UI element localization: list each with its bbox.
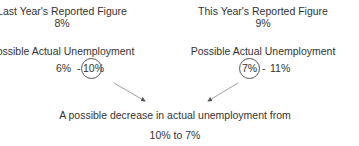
conclusion-line-1: A possible decrease in actual unemployme… xyxy=(59,109,291,121)
arrows xyxy=(0,0,359,146)
right-arrow-icon xyxy=(208,83,238,101)
conclusion-line-2: 10% to 7% xyxy=(150,129,201,141)
left-arrow-icon xyxy=(114,83,145,101)
